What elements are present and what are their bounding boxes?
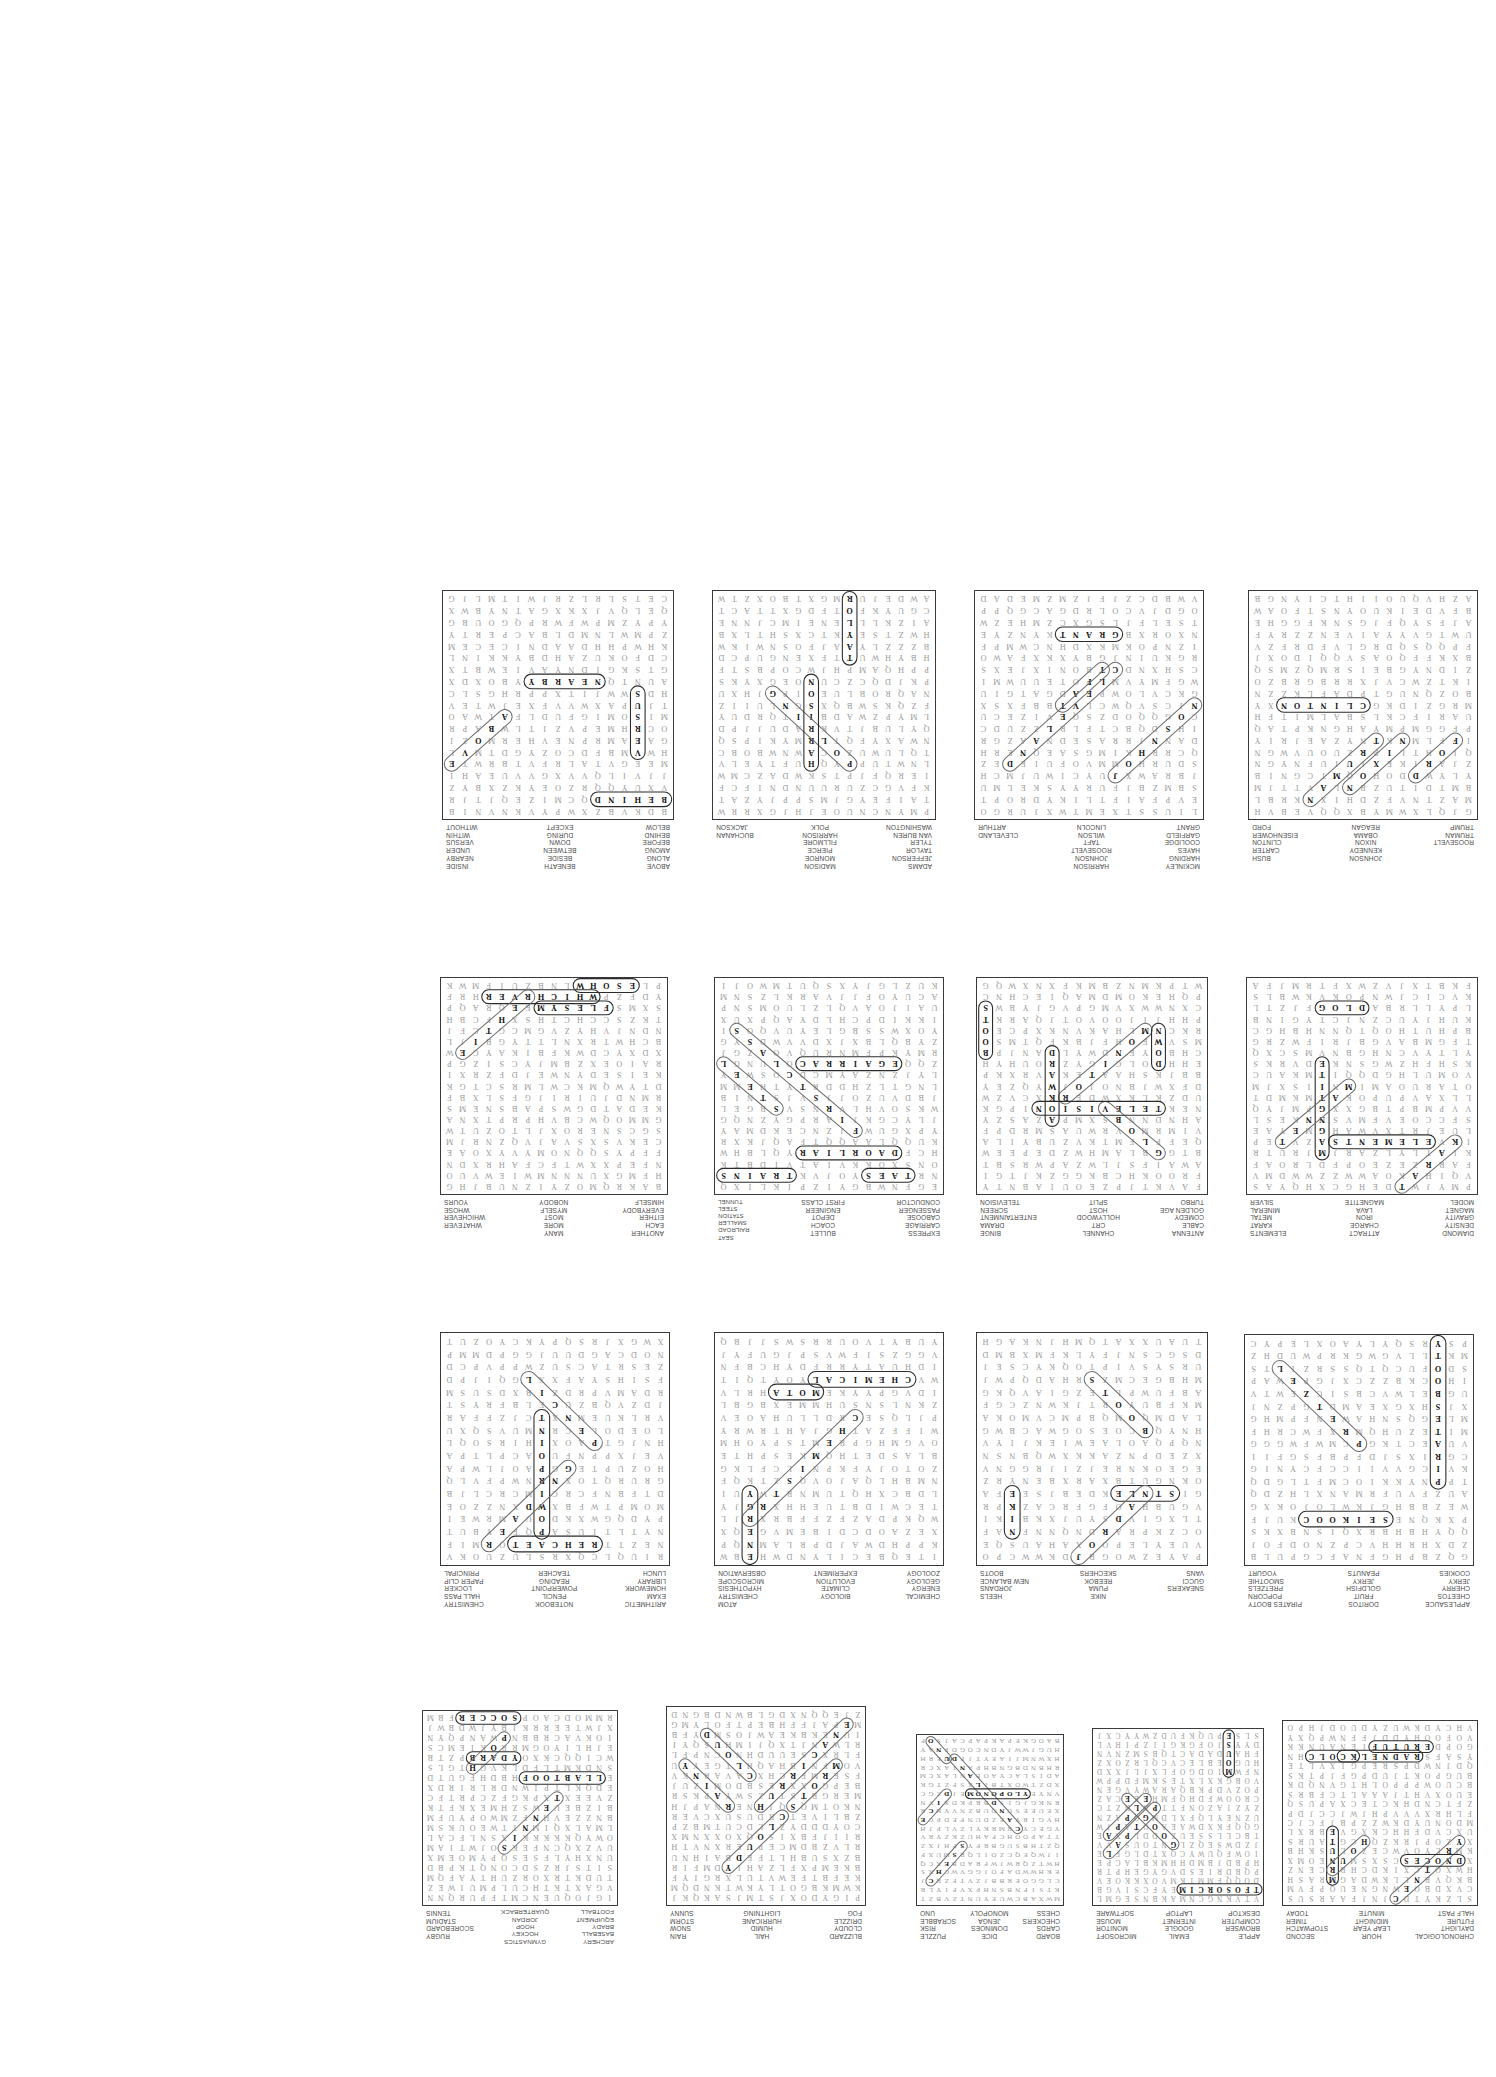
grid-cell: F	[1418, 1362, 1431, 1375]
grid-cell: H	[1260, 1425, 1273, 1438]
grid-cell: S	[779, 640, 792, 652]
grid-cell: N	[509, 1733, 520, 1743]
grid-cell: C	[1006, 1772, 1014, 1781]
grid-cell-found: S	[1085, 1373, 1098, 1386]
grid-cell: T	[644, 664, 657, 676]
grid-cell: R	[445, 723, 458, 735]
grid-cell: A	[1348, 1875, 1359, 1884]
grid-cell-found: T	[770, 1487, 783, 1500]
grid-cell: B	[1464, 1770, 1475, 1779]
grid-cell: Z	[1382, 1159, 1395, 1170]
grid-cell: I	[1366, 1463, 1379, 1476]
word-list-item: METAL	[1250, 1214, 1272, 1222]
grid-cell: Z	[1006, 1080, 1019, 1091]
grid-cell: K	[1304, 723, 1317, 735]
grid-cell: J	[1125, 1013, 1138, 1024]
grid-cell: H	[1366, 1412, 1379, 1425]
word-list-item: JOHNSON	[1349, 854, 1382, 862]
grid-cell: A	[862, 1002, 875, 1013]
grid-cell: B	[614, 1487, 627, 1500]
grid-cell: E	[1192, 1058, 1205, 1069]
grid-cell: O	[469, 1436, 482, 1449]
grid-cell: W	[1449, 628, 1462, 640]
grid-cell: A	[1096, 734, 1109, 746]
grid-cell: F	[1352, 1450, 1365, 1463]
grid-cell: X	[1264, 652, 1277, 664]
grid-cell-found: I	[1431, 1463, 1444, 1476]
grid-cell-found: E	[1422, 1742, 1433, 1751]
grid-cell: K	[456, 1550, 469, 1563]
grid-cell: P	[652, 980, 665, 991]
grid-cell: G	[548, 1462, 561, 1475]
word-list-item: MODEL	[1450, 1198, 1474, 1206]
grid-cell: J	[669, 1893, 680, 1903]
grid-cell: V	[1224, 1785, 1233, 1794]
grid-cell: B	[1150, 1749, 1159, 1758]
grid-cell: F	[547, 1159, 560, 1170]
grid-cell: R	[457, 1793, 468, 1803]
grid-cell: X	[1104, 1758, 1113, 1767]
grid-cell: O	[1069, 758, 1082, 770]
grid-cell: O	[604, 1833, 615, 1843]
grid-cell: L	[1462, 1125, 1475, 1136]
word-list-item: CHERRY	[1442, 1585, 1470, 1593]
grid-cell: H	[1287, 1488, 1300, 1501]
grid-cell: G	[992, 1335, 1005, 1348]
grid-cell: C	[1053, 1877, 1061, 1886]
grid-cell: H	[669, 1842, 680, 1852]
grid-cell: Q	[1251, 723, 1264, 735]
grid-cell: O	[445, 711, 458, 723]
grid-cell: E	[604, 1773, 615, 1783]
grid-cell: N	[809, 1760, 820, 1770]
grid-cell: V	[1251, 640, 1264, 652]
grid-cell: D	[520, 1863, 531, 1873]
grid-cell: P	[757, 1449, 770, 1462]
grid-cell: T	[777, 1883, 788, 1893]
grid-cell: G	[1082, 746, 1095, 758]
grid-cell: A	[728, 793, 741, 805]
grid-cell: V	[488, 1763, 499, 1773]
grid-cell: B	[1285, 1846, 1296, 1855]
grid-cell-found: N	[591, 676, 604, 688]
grid-cell: G	[1161, 711, 1174, 723]
grid-cell: F	[818, 605, 831, 617]
grid-cell: N	[1329, 1025, 1342, 1036]
grid-cell: J	[1369, 1732, 1380, 1741]
grid-cell: K	[1045, 1550, 1058, 1563]
grid-cell: S	[1454, 1751, 1465, 1760]
grid-cell: Z	[974, 1877, 982, 1886]
grid-cell: H	[573, 1853, 584, 1863]
grid-cell: D	[1422, 1827, 1433, 1836]
grid-cell: Z	[843, 746, 856, 758]
grid-cell: E	[901, 1550, 914, 1563]
grid-cell: E	[1152, 1550, 1165, 1563]
grid-cell: V	[1343, 652, 1356, 664]
grid-cell: F	[639, 1147, 652, 1158]
grid-cell: F	[521, 1159, 534, 1170]
grid-cell: A	[1462, 593, 1475, 605]
grid-cell: I	[1160, 1740, 1169, 1749]
grid-cell: T	[1122, 805, 1135, 817]
grid-cell: M	[1192, 1036, 1205, 1047]
word-list: CHRONOLOGICALDAYLIGHTFUTUREHALF PASTHOUR…	[1282, 1906, 1478, 1952]
grid-cell: X	[551, 770, 564, 782]
grid-cell-found: A	[1125, 1500, 1138, 1513]
grid-cell-found: R	[777, 1780, 788, 1790]
grid-cell: C	[1160, 1758, 1169, 1767]
grid-cell: D	[1045, 1147, 1058, 1158]
grid-cell: G	[757, 1525, 770, 1538]
grid-cell: E	[1383, 758, 1396, 770]
grid-cell: W	[757, 1487, 770, 1500]
grid-cell-found: A	[509, 1512, 522, 1525]
grid-cell: D	[443, 1360, 456, 1373]
grid-cell-found: M	[831, 1760, 842, 1770]
word-list-item: COMEDY	[1174, 1214, 1204, 1222]
grid-cell: S	[575, 1335, 588, 1348]
grid-cell: U	[1178, 1831, 1187, 1840]
grid-cell: K	[520, 1723, 531, 1733]
grid-cell: Y	[1019, 1002, 1032, 1013]
grid-cell: N	[1192, 1436, 1205, 1449]
grid-cell: K	[531, 1833, 542, 1843]
grid-cell: P	[669, 1821, 680, 1831]
grid-cell: E	[644, 605, 657, 617]
